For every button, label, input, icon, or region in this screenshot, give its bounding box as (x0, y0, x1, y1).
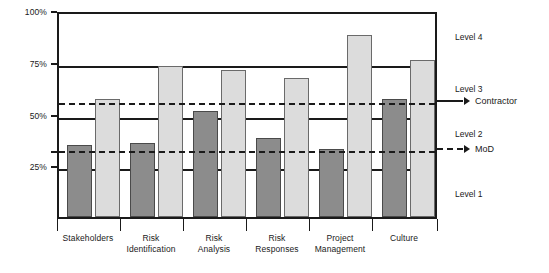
category-label-project-management: Project Management (315, 233, 366, 255)
x-tick-mark-left-edge (57, 219, 58, 231)
y-tick-label-25: 25% (30, 163, 47, 172)
y-tick-label-100: 100% (25, 8, 47, 17)
category-label-stakeholders: Stakeholders (63, 233, 114, 244)
x-tick-mark-0 (120, 219, 121, 231)
mod-line-swatch (437, 148, 463, 150)
category-label-culture: Culture (390, 233, 418, 244)
legend-label-contractor: Contractor (475, 96, 517, 106)
bar-light-risk-responses (284, 78, 309, 217)
bar-dark-risk-identification (130, 143, 155, 218)
plot-area (57, 12, 437, 219)
bar-light-culture (410, 60, 435, 217)
bar-light-stakeholders (95, 99, 120, 217)
level-annotation-column: Level 4 Level 3 Level 2 Level 1 Contract… (437, 12, 549, 219)
x-tick-mark-right-edge (437, 219, 438, 231)
reference-line-mod (59, 151, 435, 153)
level-label-1: Level 1 (455, 189, 482, 199)
bar-light-project-management (347, 35, 372, 217)
bar-light-risk-analysis (221, 70, 246, 217)
bar-dark-culture (382, 99, 407, 217)
chart-figure: 100% 75% 50% 25% (0, 0, 549, 273)
arrow-right-icon (464, 145, 470, 153)
x-tick-mark-4 (372, 219, 373, 231)
bar-series-group (59, 14, 435, 217)
bar-dark-stakeholders (67, 145, 92, 217)
x-tick-mark-2 (246, 219, 247, 231)
category-label-risk-identification: Risk Identification (126, 233, 175, 255)
reference-line-contractor (59, 103, 435, 105)
bar-dark-project-management (319, 149, 344, 217)
bar-light-risk-identification (158, 66, 183, 217)
legend-contractor: Contractor (437, 96, 517, 106)
y-tick-label-75: 75% (30, 59, 47, 68)
level-label-4: Level 4 (455, 32, 482, 42)
legend-mod: MoD (437, 144, 494, 154)
level-label-3: Level 3 (455, 84, 482, 94)
x-tick-mark-3 (309, 219, 310, 231)
contractor-line-swatch (437, 100, 463, 102)
level-label-2: Level 2 (455, 129, 482, 139)
category-label-risk-responses: Risk Responses (255, 233, 298, 255)
y-axis: 100% 75% 50% 25% (0, 0, 57, 231)
x-tick-mark-1 (183, 219, 184, 231)
bar-dark-risk-analysis (193, 111, 218, 217)
y-tick-label-50: 50% (30, 111, 47, 120)
arrow-right-icon (464, 97, 470, 105)
legend-label-mod: MoD (475, 144, 494, 154)
category-label-risk-analysis: Risk Analysis (198, 233, 230, 255)
